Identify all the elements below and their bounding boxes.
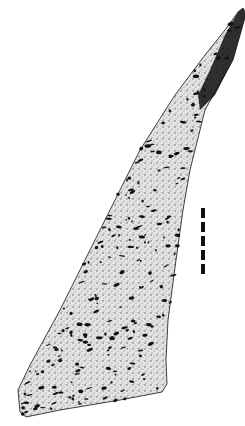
- scale-bar-segment: [201, 208, 205, 218]
- scale-bar-segment: [201, 250, 205, 260]
- specimen-illustration: [0, 0, 245, 426]
- scale-bar-segment: [201, 236, 205, 246]
- scale-bar-segment: [201, 264, 205, 274]
- scale-bar: [201, 208, 205, 274]
- scale-bar-segment: [201, 222, 205, 232]
